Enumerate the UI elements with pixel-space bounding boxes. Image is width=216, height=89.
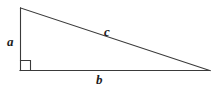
side-label-c: c — [104, 25, 110, 38]
side-label-b: b — [96, 73, 103, 86]
right-angle-icon — [21, 61, 31, 71]
triangle-side-c-line — [21, 8, 211, 71]
triangle-graphic — [0, 0, 216, 89]
right-triangle-diagram: a b c — [0, 0, 216, 89]
side-label-a: a — [7, 35, 14, 48]
